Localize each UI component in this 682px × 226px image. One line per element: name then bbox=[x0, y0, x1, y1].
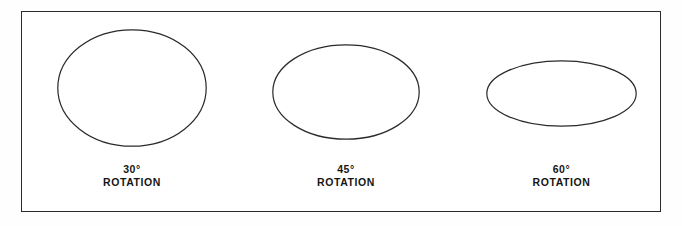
ellipse-group-60 bbox=[486, 60, 637, 127]
caption-30-angle: 30° bbox=[57, 163, 207, 176]
figure-root: 30° ROTATION 45° ROTATION 60° ROTATION bbox=[0, 0, 682, 226]
caption-30-rotation: ROTATION bbox=[57, 176, 207, 189]
caption-45: 45° ROTATION bbox=[272, 163, 420, 189]
caption-60-angle: 60° bbox=[486, 163, 637, 176]
ellipse-60-icon bbox=[486, 60, 637, 127]
caption-60-rotation: ROTATION bbox=[486, 176, 637, 189]
caption-60: 60° ROTATION bbox=[486, 163, 637, 189]
caption-45-rotation: ROTATION bbox=[272, 176, 420, 189]
ellipse-45-icon bbox=[272, 44, 420, 140]
caption-30: 30° ROTATION bbox=[57, 163, 207, 189]
ellipse-group-45 bbox=[272, 44, 420, 140]
caption-45-angle: 45° bbox=[272, 163, 420, 176]
ellipse-group-30 bbox=[57, 29, 207, 147]
ellipse-30-icon bbox=[57, 29, 207, 147]
